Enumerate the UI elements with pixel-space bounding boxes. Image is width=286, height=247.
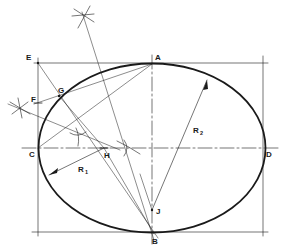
top-cross-mark — [72, 6, 94, 28]
label-r2: R 2 — [193, 126, 203, 136]
r2-arrowhead — [203, 80, 208, 90]
point-g-dot — [58, 95, 60, 97]
bisector-line — [82, 12, 154, 240]
svg-text:2: 2 — [200, 130, 203, 136]
label-j: J — [156, 207, 160, 216]
label-h: H — [104, 151, 110, 160]
label-e: E — [26, 53, 32, 62]
svg-text:1: 1 — [85, 169, 88, 175]
label-d: D — [266, 150, 272, 159]
label-b: B — [152, 237, 158, 246]
left-cross-mark — [10, 98, 30, 118]
line-ag — [34, 64, 152, 104]
svg-text:R: R — [193, 126, 199, 135]
j-extension — [140, 174, 152, 210]
label-g: G — [58, 86, 64, 95]
point-j-dot — [151, 209, 153, 211]
label-f: F — [31, 95, 36, 104]
radius-r2-line — [152, 80, 207, 210]
diagram-svg: A B C D E F G H J R 1 R 2 — [0, 0, 286, 247]
label-r1: R 1 — [78, 165, 88, 175]
line-g-h — [59, 96, 104, 148]
ellipse-construction-diagram: A B C D E F G H J R 1 R 2 — [0, 0, 286, 247]
label-a: A — [155, 53, 161, 62]
label-c: C — [29, 150, 35, 159]
point-e-dot — [37, 62, 39, 64]
diagonal-e-line — [38, 63, 158, 238]
svg-text:R: R — [78, 165, 84, 174]
r1-arrowhead — [49, 168, 58, 175]
chord-ca — [38, 64, 152, 148]
